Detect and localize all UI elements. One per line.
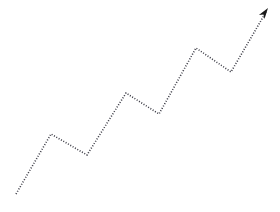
zigzag-trend-chart <box>0 0 280 212</box>
chart-figure: Upward Growth Trend Arrow Dotted zigzag … <box>0 0 280 212</box>
chart-background <box>0 0 280 212</box>
